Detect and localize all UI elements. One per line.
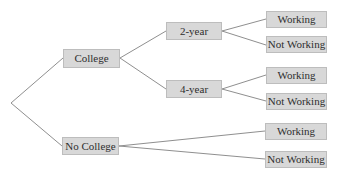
node-college: College	[63, 49, 120, 68]
edge-2year-not-working	[222, 31, 266, 45]
node-nocollege-working: Working	[265, 123, 327, 140]
decision-tree-diagram: College No College 2-year 4-year Working…	[0, 0, 338, 175]
edge-2year-working	[222, 19, 266, 31]
node-4year-working: Working	[266, 67, 327, 84]
edge-nocollege-not-working	[119, 146, 265, 159]
node-4year-not-working: Not Working	[266, 93, 327, 110]
node-no-college: No College	[62, 137, 119, 155]
node-4-year: 4-year	[166, 80, 222, 98]
node-2year-working: Working	[266, 11, 327, 28]
node-2-year: 2-year	[166, 22, 222, 40]
edge-4year-not-working	[222, 89, 266, 101]
node-nocollege-not-working: Not Working	[265, 151, 327, 168]
edge-nocollege-working	[119, 131, 265, 146]
edge-4year-working	[222, 75, 266, 89]
edge-root-no-college	[11, 103, 62, 146]
node-2year-not-working: Not Working	[266, 36, 327, 53]
edge-root-college	[11, 58, 63, 103]
edge-college-2year	[120, 31, 166, 58]
edge-college-4year	[120, 58, 166, 89]
